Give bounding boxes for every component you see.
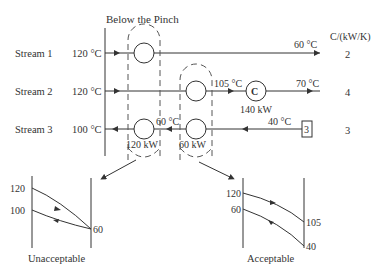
stream-2-supply: 120 °C xyxy=(72,86,102,97)
svg-text:120: 120 xyxy=(10,183,25,194)
exchanger-1-duty: 120 kW xyxy=(126,139,159,150)
stream-1-cp: 2 xyxy=(345,49,350,60)
pinch-diagram: Below the Pinch C/(kW/K) Stream 1 120 °C… xyxy=(0,0,380,277)
svg-text:40: 40 xyxy=(306,241,316,252)
unacceptable-caption: Unacceptable xyxy=(28,253,85,264)
stream-1-label: Stream 1 xyxy=(15,48,53,59)
svg-text:60: 60 xyxy=(231,204,241,215)
svg-text:60: 60 xyxy=(93,224,103,235)
stream-3-cp: 3 xyxy=(345,125,350,136)
stream-2-intermediate: 105 °C xyxy=(214,78,242,89)
stream-3-label: Stream 3 xyxy=(15,124,53,135)
stream-3-supply: 40 °C xyxy=(268,116,291,127)
cooler-label: C xyxy=(251,86,258,97)
arrow-to-unacceptable xyxy=(103,160,136,178)
stream-1-supply: 120 °C xyxy=(72,48,102,59)
arrow-to-acceptable xyxy=(199,162,232,178)
title: Below the Pinch xyxy=(106,13,179,25)
stream-3-target: 100 °C xyxy=(72,124,102,135)
cp-header: C/(kW/K) xyxy=(330,31,371,43)
svg-text:100: 100 xyxy=(10,205,25,216)
exchanger-2-duty: 60 kW xyxy=(179,139,207,150)
cooler-duty: 140 kW xyxy=(240,104,273,115)
acceptable-plot: 120 60 105 40 Acceptable xyxy=(226,178,321,264)
exchanger-2-cold xyxy=(186,119,206,139)
stream-2-target: 70 °C xyxy=(296,78,319,89)
exchanger-1-cold xyxy=(134,119,154,139)
exchanger-1-hot xyxy=(134,43,154,63)
exchanger-2-hot xyxy=(186,81,206,101)
source-box-label: 3 xyxy=(304,124,309,135)
acceptable-caption: Acceptable xyxy=(247,253,295,264)
stream-2-cp: 4 xyxy=(345,87,351,98)
stream-1-target: 60 °C xyxy=(294,39,317,50)
stream-2-label: Stream 2 xyxy=(15,86,53,97)
svg-text:120: 120 xyxy=(226,188,241,199)
svg-text:105: 105 xyxy=(306,217,321,228)
unacceptable-plot: 120 100 60 Unacceptable xyxy=(10,176,103,264)
